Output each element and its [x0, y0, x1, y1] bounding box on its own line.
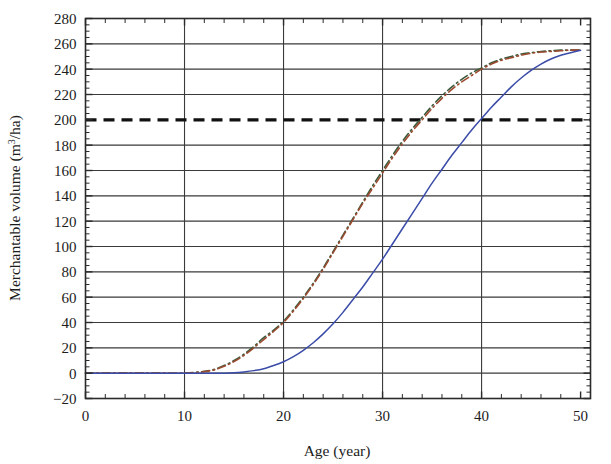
y-tick-label: 200	[54, 112, 77, 128]
y-tick-label: 0	[69, 366, 77, 382]
x-tick-label: 10	[177, 408, 192, 424]
y-tick-label: 120	[54, 214, 77, 230]
y-axis-title-main: Merchantable volume (m	[6, 144, 24, 301]
y-tick-label: 60	[62, 290, 77, 306]
y-tick-label: 160	[54, 163, 77, 179]
y-tick-label: 180	[54, 138, 77, 154]
y-tick-label: 240	[54, 62, 77, 78]
x-tick-label: 50	[573, 408, 588, 424]
y-tick-label: 140	[54, 188, 77, 204]
x-tick-label: 30	[375, 408, 390, 424]
chart-figure: 01020304050 −200204060801001201401601802…	[0, 0, 611, 464]
y-tick-label: 80	[62, 264, 77, 280]
x-tick-label: 20	[276, 408, 291, 424]
y-tick-label: 280	[54, 11, 77, 27]
x-tick-label: 40	[474, 408, 489, 424]
x-tick-label: 0	[82, 408, 90, 424]
y-tick-label: 260	[54, 36, 77, 52]
x-axis-title: Age (year)	[304, 442, 371, 460]
y-tick-label: −20	[53, 391, 76, 407]
merchantable-volume-chart: 01020304050 −200204060801001201401601802…	[0, 0, 611, 464]
y-axis-title-tail: /ha)	[6, 115, 24, 139]
y-tick-label: 100	[54, 239, 77, 255]
y-tick-label: 220	[54, 87, 77, 103]
y-tick-label: 20	[62, 340, 77, 356]
y-tick-label: 40	[62, 315, 77, 331]
